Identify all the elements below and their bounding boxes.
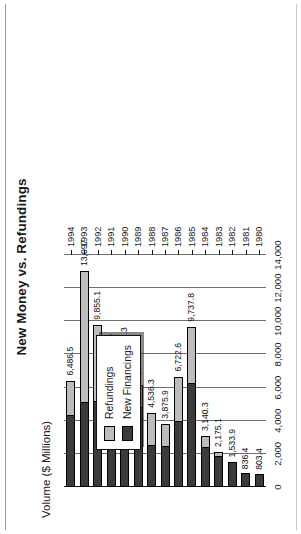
bar-segment-new-financings: [201, 447, 210, 487]
category-tick: [125, 250, 126, 255]
data-label-1981: 836.4: [241, 448, 250, 470]
category-tick: [71, 250, 72, 255]
category-label-1981: 1981: [241, 227, 251, 247]
gridline: [64, 320, 266, 321]
legend-item-new-financings: New Financings: [122, 345, 133, 441]
value-axis-tick-label: 6,000: [272, 376, 283, 400]
data-label-1985: 9,737.8: [187, 293, 196, 322]
data-label-1984: 3,140.3: [201, 402, 210, 431]
data-label-1983: 2,175.1: [214, 418, 223, 447]
category-label-1983: 1983: [214, 227, 224, 247]
plot-area: 803.4836.41,533.92,175.13,140.39,737.86,…: [64, 255, 266, 487]
category-label-1988: 1988: [147, 227, 157, 247]
chart-page: New Money vs. Refundings Volume ($ Milli…: [0, 0, 301, 534]
page-rule-top: [5, 4, 6, 530]
category-tick: [205, 250, 206, 255]
bar-1987: [161, 424, 170, 487]
bar-segment-refundings: [147, 413, 156, 446]
value-axis-tick-label: 2,000: [272, 442, 283, 466]
bar-segment-new-financings: [80, 402, 89, 487]
bar-segment-new-financings: [228, 462, 237, 487]
value-axis-title: Volume ($ Millions): [40, 421, 52, 518]
category-label-1992: 1992: [93, 227, 103, 247]
value-axis-tick-label: 0: [272, 484, 283, 489]
value-axis-tick-label: 8,000: [272, 342, 283, 366]
bar-segment-new-financings: [187, 383, 196, 487]
bar-1993: [80, 271, 89, 487]
value-axis-tick-label: 4,000: [272, 409, 283, 433]
chart-title: New Money vs. Refundings: [14, 0, 29, 534]
category-tick: [98, 250, 99, 255]
category-label-1980: 1980: [254, 227, 264, 247]
data-label-1980: 803.4: [255, 448, 264, 470]
data-label-1982: 1,533.9: [228, 429, 237, 458]
category-axis: 1980198119821983198419851986198719881989…: [64, 211, 266, 255]
bar-1982: [228, 462, 237, 487]
page-rule-bottom: [296, 4, 297, 530]
bar-1994: [66, 381, 75, 487]
data-label-1988: 4,536.3: [147, 379, 156, 408]
category-tick: [246, 250, 247, 255]
category-label-1991: 1991: [106, 227, 116, 247]
category-label-1986: 1986: [173, 227, 183, 247]
bar-segment-new-financings: [214, 456, 223, 487]
value-axis-tick-label: 14,000: [272, 240, 283, 269]
category-label-1990: 1990: [120, 227, 130, 247]
bar-segment-new-financings: [66, 415, 75, 487]
data-label-1994: 6,486.5: [66, 347, 75, 376]
bar-segment-refundings: [201, 436, 210, 448]
category-tick: [192, 250, 193, 255]
chart-legend: Refundings New Financings: [96, 335, 141, 450]
bar-1988: [147, 413, 156, 487]
value-axis-tick-label: 10,000: [272, 307, 283, 336]
bar-1985: [187, 327, 196, 487]
data-label-1992: 9,855.1: [93, 291, 102, 320]
bar-segment-refundings: [174, 377, 183, 422]
data-label-1987: 3,875.9: [161, 390, 170, 419]
category-tick: [232, 250, 233, 255]
data-label-1986: 6,722.6: [174, 343, 183, 372]
bar-1986: [174, 377, 183, 487]
bar-segment-refundings: [161, 424, 170, 447]
category-label-1989: 1989: [133, 227, 143, 247]
bar-segment-new-financings: [241, 473, 250, 487]
legend-swatch-new-financings: [122, 426, 133, 441]
bar-segment-new-financings: [255, 474, 264, 487]
category-tick: [138, 250, 139, 255]
category-tick: [152, 250, 153, 255]
bar-segment-new-financings: [174, 421, 183, 487]
category-tick: [84, 250, 85, 255]
gridline: [64, 287, 266, 288]
category-label-1984: 1984: [200, 227, 210, 247]
bar-1984: [201, 436, 210, 487]
category-label-1982: 1982: [227, 227, 237, 247]
rotated-chart-wrapper: New Money vs. Refundings Volume ($ Milli…: [0, 0, 301, 534]
category-label-1987: 1987: [160, 227, 170, 247]
bar-segment-refundings: [80, 271, 89, 403]
bar-1980: [255, 474, 264, 487]
value-axis-tick-label: 12,000: [272, 273, 283, 302]
category-label-1985: 1985: [187, 227, 197, 247]
legend-swatch-refundings: [104, 426, 115, 441]
bar-segment-refundings: [66, 381, 75, 417]
category-tick: [219, 250, 220, 255]
bar-segment-refundings: [214, 452, 223, 457]
bar-1983: [214, 452, 223, 487]
category-label-1993: 1993: [79, 227, 89, 247]
bar-segment-refundings: [187, 327, 196, 384]
category-tick: [111, 250, 112, 255]
category-tick: [165, 250, 166, 255]
category-tick: [259, 250, 260, 255]
category-tick: [178, 250, 179, 255]
legend-item-refundings: Refundings: [104, 345, 115, 441]
bar-1981: [241, 473, 250, 487]
category-label-1994: 1994: [66, 227, 76, 247]
legend-label-new-financings: New Financings: [122, 345, 133, 419]
legend-label-refundings: Refundings: [104, 366, 115, 419]
bar-segment-new-financings: [161, 446, 170, 487]
bar-segment-new-financings: [147, 445, 156, 487]
